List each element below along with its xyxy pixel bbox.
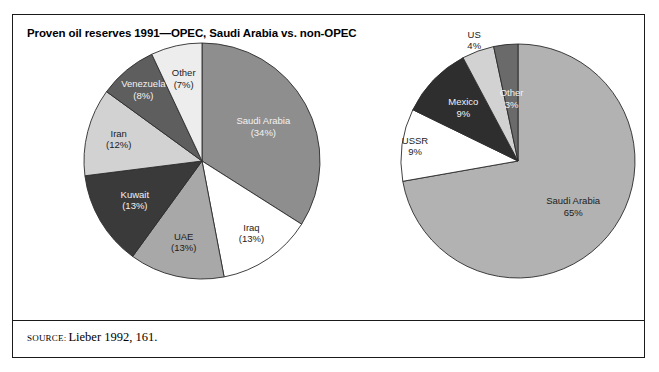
pie-chart-non-opec: Saudi Arabia65%USSR9%Mexico9%US4%Other3% (388, 31, 648, 291)
pie-chart-opec: Saudi Arabia(34%)Iraq(13%)UAE(13%)Kuwait… (72, 31, 332, 291)
source-divider (13, 320, 644, 322)
pie-chart-non-opec-svg (388, 31, 648, 291)
source-citation: SOURCE:Lieber 1992, 161. (27, 330, 157, 345)
pie-chart-opec-svg (72, 31, 332, 291)
figure-panel: Proven oil reserves 1991—OPEC, Saudi Ara… (12, 14, 645, 358)
source-text: Lieber 1992, 161. (68, 330, 157, 344)
chart-area: Saudi Arabia(34%)Iraq(13%)UAE(13%)Kuwait… (13, 49, 644, 321)
source-label: SOURCE: (27, 333, 66, 343)
